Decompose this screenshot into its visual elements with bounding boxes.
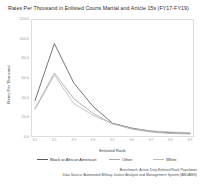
y-axis-tick: 20.0: [22, 115, 29, 119]
y-axis-tick: 0.0: [24, 135, 29, 139]
y-axis-tick: 100.0: [19, 37, 29, 41]
x-axis-tick: E1: [33, 138, 38, 142]
x-axis-tick: E8: [168, 138, 173, 142]
x-axis-tick: E2: [52, 138, 57, 142]
y-axis-tick-labels: 0.020.040.060.080.0100.0120.0: [12, 19, 30, 137]
y-axis-tick: 80.0: [22, 56, 29, 60]
legend-line-swatch: [37, 159, 48, 160]
chart-footnotes: Benchmark: Active Duty Enlisted Rank Pop…: [7, 168, 197, 177]
legend-label: White: [166, 157, 176, 162]
legend-label: Other: [122, 157, 132, 162]
legend-label: Black or African American: [50, 157, 97, 162]
y-axis-tick: 40.0: [22, 96, 29, 100]
legend-item[interactable]: Other: [109, 157, 132, 162]
x-axis-tick: E9: [188, 138, 193, 142]
series-line: [35, 73, 190, 134]
y-axis-tick: 60.0: [22, 76, 29, 80]
x-axis-tick: E5: [110, 138, 115, 142]
legend-item[interactable]: Black or African American: [37, 157, 97, 162]
x-axis-tick: E3: [71, 138, 76, 142]
legend-line-swatch: [109, 159, 120, 160]
legend-line-swatch: [153, 159, 164, 160]
footnote-source: Data Source: Automated Military Justice …: [7, 173, 197, 178]
chart-legend: Black or African AmericanOtherWhite: [31, 157, 194, 167]
x-axis-label: Enlisted Rank: [31, 148, 194, 153]
x-axis-tick: E7: [149, 138, 154, 142]
y-axis-label: Rates Per Thousand: [6, 55, 11, 115]
legend-item[interactable]: White: [153, 157, 176, 162]
series-line: [35, 44, 190, 133]
series-line: [35, 75, 190, 133]
chart-series-layer: [31, 19, 194, 137]
chart-title: Rates Per Thousand in Enlisted Courts Ma…: [8, 5, 202, 12]
chart-figure: Rates Per Thousand in Enlisted Courts Ma…: [0, 0, 205, 188]
x-axis-tick-labels: E1E2E3E4E5E6E7E8E9: [31, 138, 194, 147]
y-axis-tick: 120.0: [19, 17, 29, 21]
x-axis-tick: E6: [130, 138, 135, 142]
x-axis-tick: E4: [91, 138, 96, 142]
